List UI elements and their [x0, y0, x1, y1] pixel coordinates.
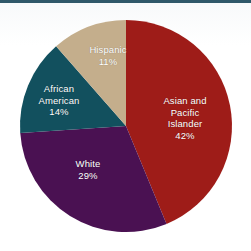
slice-label-line: Hispanic [89, 44, 126, 55]
slice-label-line: White [76, 158, 101, 169]
slice-label-line: Asian and [163, 95, 206, 106]
slice-label-line: American [39, 95, 80, 106]
slice-label-line: Pacific [171, 107, 200, 118]
slice-label-white: White 29% [55, 158, 121, 181]
slice-percent-value: 11% [75, 56, 141, 68]
pie-chart-figure: Asian and Pacific Islander 42% White 29%… [0, 0, 251, 251]
slice-percent-value: 14% [22, 106, 96, 118]
slice-label-line: Islander [168, 118, 203, 129]
slice-label-hispanic: Hispanic 11% [75, 44, 141, 67]
slice-percent-value: 42% [150, 130, 220, 142]
slice-label-asian-and-pacific-islander: Asian and Pacific Islander 42% [150, 95, 220, 141]
slice-percent-value: 29% [55, 170, 121, 182]
slice-label-line: African [44, 83, 74, 94]
slice-label-african-american: African American 14% [22, 83, 96, 118]
